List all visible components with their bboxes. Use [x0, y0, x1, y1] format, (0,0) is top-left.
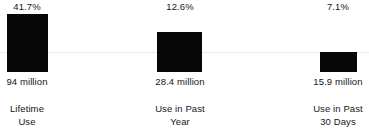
bar-percent-label: 7.1%: [298, 1, 369, 12]
bar-count-label: 15.9 million: [298, 76, 369, 87]
bar-category-label: Lifetime Use: [0, 103, 58, 128]
bar-group-use-in-past-30-days: 7.1% 15.9 million Use in Past 30 Days: [298, 0, 369, 132]
bar-group-use-in-past-year: 12.6% 28.4 million Use in Past Year: [139, 0, 221, 132]
category-line-1: Use in Past: [139, 103, 221, 116]
bar-count-label: 28.4 million: [139, 76, 221, 87]
bar-percent-label: 12.6%: [139, 1, 221, 12]
bar-count-label: 94 million: [0, 76, 58, 87]
plot-area: 41.7% 94 million Lifetime Use 12.6% 28.4…: [0, 0, 369, 132]
category-line-1: Lifetime: [0, 103, 58, 116]
category-line-2: Year: [139, 116, 221, 129]
bar-chart: 41.7% 94 million Lifetime Use 12.6% 28.4…: [0, 0, 369, 132]
category-line-2: Use: [0, 116, 58, 129]
category-line-2: 30 Days: [298, 116, 369, 129]
bar-rect[interactable]: [7, 14, 48, 72]
bar-rect[interactable]: [320, 52, 357, 72]
category-line-1: Use in Past: [298, 103, 369, 116]
bar-rect[interactable]: [157, 32, 202, 72]
bar-group-lifetime-use: 41.7% 94 million Lifetime Use: [0, 0, 58, 132]
bar-percent-label: 41.7%: [0, 1, 58, 12]
bar-category-label: Use in Past 30 Days: [298, 103, 369, 128]
bar-category-label: Use in Past Year: [139, 103, 221, 128]
